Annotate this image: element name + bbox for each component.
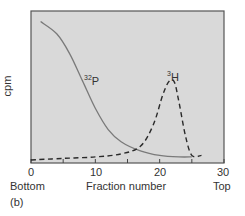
panel-label: (b) xyxy=(10,196,23,208)
x-tick-0: 0 xyxy=(28,166,34,178)
x-tick-10: 10 xyxy=(90,166,102,178)
x-tick-20: 20 xyxy=(154,166,166,178)
series-label-3h-main: H xyxy=(171,71,179,83)
series-label-32p-main: P xyxy=(92,75,99,87)
x-left-label: Bottom xyxy=(10,180,45,192)
x-tick-30: 30 xyxy=(217,166,229,178)
series-label-32p-sup: 32 xyxy=(84,74,92,81)
y-axis-label: cpm xyxy=(1,76,13,97)
series-label-32p: 32P xyxy=(84,72,99,87)
plot-area xyxy=(31,11,224,163)
series-label-3h: 3H xyxy=(167,68,179,83)
x-right-label: Top xyxy=(213,180,231,192)
x-axis-label: Fraction number xyxy=(86,180,166,192)
